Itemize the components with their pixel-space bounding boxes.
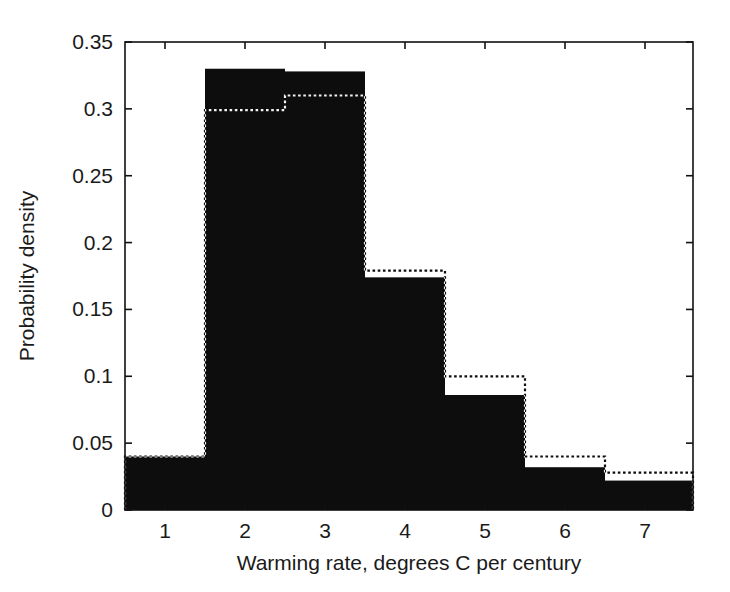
y-tick-label: 0.35 bbox=[72, 30, 113, 53]
x-tick-label: 2 bbox=[239, 519, 251, 542]
x-tick-label: 3 bbox=[319, 519, 331, 542]
x-tick-label: 6 bbox=[559, 519, 571, 542]
x-tick-label: 1 bbox=[159, 519, 171, 542]
y-tick-label: 0.1 bbox=[84, 364, 113, 387]
y-tick-label: 0.15 bbox=[72, 297, 113, 320]
x-tick-label: 7 bbox=[639, 519, 651, 542]
y-tick-label: 0.2 bbox=[84, 231, 113, 254]
histogram-bar bbox=[205, 69, 285, 510]
histogram-figure: 00.050.10.150.20.250.30.35 1234567 Warmi… bbox=[0, 0, 730, 592]
y-tick-label: 0 bbox=[101, 498, 113, 521]
histogram-bar bbox=[285, 71, 365, 510]
y-tick-label: 0.05 bbox=[72, 431, 113, 454]
y-tick-label: 0.25 bbox=[72, 164, 113, 187]
x-tick-label: 4 bbox=[399, 519, 411, 542]
histogram-bar bbox=[365, 277, 445, 510]
histogram-bar bbox=[445, 395, 525, 510]
histogram-bar bbox=[605, 481, 693, 510]
x-tick-label: 5 bbox=[479, 519, 491, 542]
histogram-bar bbox=[125, 457, 205, 510]
y-axis-title: Probability density bbox=[15, 190, 38, 361]
x-axis-title: Warming rate, degrees C per century bbox=[237, 551, 582, 574]
y-tick-label: 0.3 bbox=[84, 97, 113, 120]
chart-canvas: 00.050.10.150.20.250.30.35 1234567 Warmi… bbox=[0, 0, 730, 592]
